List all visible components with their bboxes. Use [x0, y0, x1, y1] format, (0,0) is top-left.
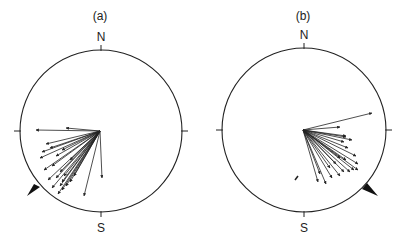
stereonet-panel-b: (b)NS [216, 9, 392, 235]
primitive-circle [20, 50, 182, 212]
south-label: S [300, 221, 308, 235]
slip-vector-arrow [100, 131, 102, 178]
north-label: N [97, 30, 106, 44]
stray-mark [295, 176, 298, 180]
stereonet-panel-a: (a)NS [14, 9, 188, 235]
south-label: S [97, 221, 105, 235]
stereonet-figure: (a)NS(b)NS [0, 0, 399, 241]
mean-direction-arrowhead-icon [27, 184, 40, 196]
north-label: N [300, 28, 309, 42]
slip-vector-arrow [56, 131, 100, 178]
panel-label: (b) [296, 9, 311, 23]
panel-label: (a) [93, 9, 108, 23]
